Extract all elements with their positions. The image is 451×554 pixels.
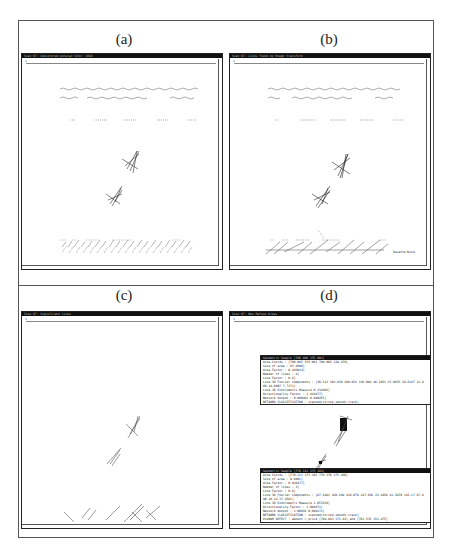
panel-label-b: (b) (309, 31, 349, 48)
significant-lines-image-c (22, 312, 223, 529)
panel-label-c: (c) (104, 287, 144, 304)
window-panel-d: Scan 07: New Refuse Areas 1 Geometric Sa… (229, 311, 431, 529)
info-line: NETWORK CLASSIFICATION : scanned/strike_… (261, 400, 431, 404)
window-panel-a: Scan 07: Cemiotored ponstat Shox: 1048 1 (21, 53, 223, 270)
info-line: PLANAR DEFECT : amount = price [798.943 … (261, 517, 431, 521)
geometric-sample-panel-2: Geometric Sample [770 211 175 183] Area … (260, 468, 431, 523)
window-panel-b: Scan 07: Lines found by Hough transform … (229, 53, 431, 270)
baseline-noise-annotation: Baseline Noise (393, 250, 415, 254)
panel-divider (19, 285, 433, 286)
scan-image-a (22, 54, 223, 270)
hough-lines-image-b (230, 54, 431, 270)
panel-label-d: (d) (309, 287, 349, 304)
panel-label-a: (a) (104, 31, 144, 48)
geometric-sample-panel-1: Geometric Sample [700 806 155 001] Area … (260, 355, 431, 405)
window-panel-c: Scan 07: Significant Lines 1 (21, 311, 223, 529)
